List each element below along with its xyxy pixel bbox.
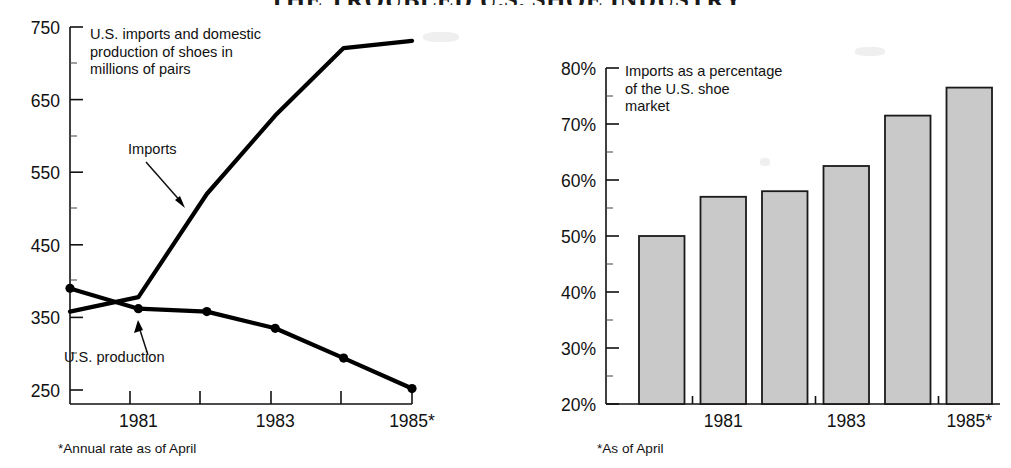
y-axis-label-350: 350 <box>31 308 60 328</box>
bar-1981 <box>700 197 746 404</box>
imports-series-label: Imports <box>128 141 177 157</box>
y-axis-label-650: 650 <box>31 91 60 111</box>
y-axis-label-20: 20% <box>561 395 596 415</box>
bar-chart-note: Imports as a percentage of the U.S. shoe… <box>625 63 855 116</box>
y-axis-label-30: 30% <box>561 339 596 359</box>
y-axis-label-50: 50% <box>561 227 596 247</box>
production-point <box>202 307 211 316</box>
bar-1984 <box>885 116 931 404</box>
production-series-label: U.S. production <box>64 349 165 365</box>
production-point <box>339 353 348 362</box>
y-axis-label-40: 40% <box>561 283 596 303</box>
bar-1983 <box>823 166 869 404</box>
production-point <box>134 304 143 313</box>
line-chart-note: U.S. imports and domestic production of … <box>90 26 320 79</box>
bar-1985 <box>946 88 992 404</box>
y-axis-label-60: 60% <box>561 171 596 191</box>
x-axis-label-1981: 1981 <box>704 411 743 431</box>
figure-root: THE TROUBLED U.S. SHOE INDUSTRY 750 650 … <box>0 0 1011 468</box>
y-axis-label-450: 450 <box>31 236 60 256</box>
imports-leader-line <box>146 162 182 203</box>
x-axis-label-1983: 1983 <box>827 411 866 431</box>
production-leader-arrowhead <box>134 320 143 333</box>
x-axis-label-1985: 1985* <box>946 411 992 431</box>
y-axis-label-250: 250 <box>31 381 60 401</box>
y-axis-label-750: 750 <box>31 18 60 38</box>
bar-chart-panel: 80% 70% 60% 50% 40% 30% 20% <box>495 0 1011 468</box>
production-point <box>65 284 74 293</box>
y-axis-label-70: 70% <box>561 115 596 135</box>
x-axis-label-1981: 1981 <box>119 411 158 431</box>
imports-line <box>70 41 412 312</box>
bar-1982 <box>762 191 808 404</box>
line-chart-panel: 750 650 550 450 350 250 <box>0 0 470 468</box>
line-chart-footnote: *Annual rate as of April <box>58 441 196 456</box>
production-line <box>70 288 412 388</box>
production-point <box>407 384 416 393</box>
production-point <box>271 324 280 333</box>
y-axis-label-550: 550 <box>31 163 60 183</box>
x-axis-label-1985: 1985* <box>389 411 435 431</box>
bar-chart-footnote: *As of April <box>597 441 664 456</box>
x-axis-label-1983: 1983 <box>256 411 295 431</box>
y-axis-label-80: 80% <box>561 59 596 79</box>
bar-1980 <box>639 236 685 404</box>
